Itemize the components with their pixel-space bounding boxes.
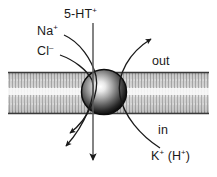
label-proton-open: (H — [164, 149, 181, 163]
label-chloride: Cl– — [37, 45, 54, 58]
label-sodium-charge: + — [53, 23, 58, 32]
label-serotonin-text: 5-HT — [64, 7, 92, 21]
transporter-diagram: 5-HT+ Na+ Cl– out in K+ (H+) — [0, 0, 217, 177]
label-sodium-text: Na — [37, 24, 53, 38]
label-chloride-charge: – — [49, 43, 53, 52]
label-potassium: K+ (H+) — [151, 150, 190, 163]
label-serotonin: 5-HT+ — [64, 8, 97, 21]
label-sodium: Na+ — [37, 25, 58, 38]
label-serotonin-charge: + — [92, 6, 97, 15]
label-extracellular: out — [152, 55, 170, 68]
label-proton-close: ) — [186, 149, 190, 163]
label-chloride-text: Cl — [37, 44, 49, 58]
label-intracellular: in — [158, 124, 168, 137]
